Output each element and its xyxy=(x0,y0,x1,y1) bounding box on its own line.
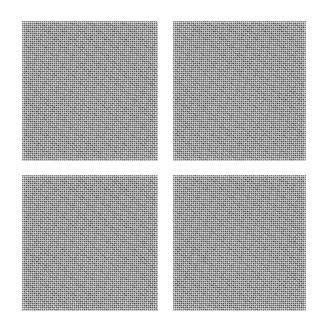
grain-overlay-bottom-left xyxy=(22,175,158,311)
patch-edge-top-left xyxy=(22,21,158,161)
patch-edge-top-right xyxy=(173,21,306,161)
grain-overlay-bottom-right xyxy=(173,175,306,311)
grain-overlay-top-left xyxy=(22,21,158,161)
texture-patch-top-left xyxy=(22,21,158,161)
texture-patch-figure xyxy=(0,0,326,322)
texture-patch-bottom-right xyxy=(173,175,306,311)
patch-edge-bottom-right xyxy=(173,175,306,311)
texture-patch-top-right xyxy=(173,21,306,161)
grain-overlay-top-right xyxy=(173,21,306,161)
texture-patch-bottom-left xyxy=(22,175,158,311)
patch-edge-bottom-left xyxy=(22,175,158,311)
